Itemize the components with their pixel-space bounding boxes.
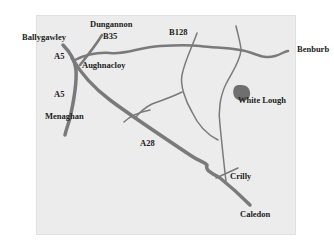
road-label-b35: B35 (103, 32, 117, 41)
road-a28 (72, 58, 250, 205)
place-label-crilly: Crilly (230, 172, 251, 181)
road-label-a5-north: A5 (54, 52, 64, 61)
place-label-white-lough: White Lough (238, 96, 286, 105)
place-label-benburb: Benburb (297, 45, 329, 54)
road-label-b128: B128 (169, 28, 187, 37)
place-label-caledon: Caledon (240, 210, 270, 219)
road-label-a5-south: A5 (54, 90, 64, 99)
place-label-menaghan: Menaghan (45, 112, 84, 121)
place-label-ballygawley: Ballygawley (22, 33, 66, 42)
place-label-dungannon: Dungannon (90, 20, 133, 29)
minor-road-branch-west (136, 92, 182, 117)
place-label-aughnacloy: Aughnacloy (82, 61, 125, 70)
road-b128 (75, 45, 288, 60)
road-label-a28: A28 (140, 139, 155, 148)
minor-road-central (182, 33, 218, 140)
